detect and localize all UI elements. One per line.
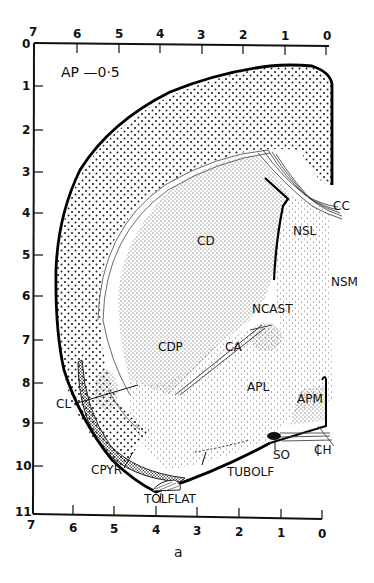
left-tick-label: 7 [22,334,30,346]
left-tick-label: 11 [15,506,32,518]
label-ncast: NCAST [252,303,293,315]
section-title: AP —0·5 [61,66,120,78]
bottom-tick-label: 7 [27,519,35,531]
label-cdp: CDP [158,341,183,353]
bottom-tick-label: 6 [69,522,77,534]
label-apl: APL [247,381,269,393]
figure-caption: a [174,544,183,560]
top-tick-label: 4 [156,28,164,40]
label-tubolf: TUBOLF [227,466,274,478]
left-tick-label: 4 [22,207,30,219]
bottom-tick-label: 4 [152,524,160,536]
top-tick-label: 5 [115,28,123,40]
label-cc: CC [333,200,350,212]
left-tick-label: 8 [22,377,30,389]
bottom-tick-label: 2 [235,526,243,538]
so-nucleus [267,432,281,440]
left-tick-label: 6 [22,290,30,302]
top-tick-label: 0 [323,30,331,42]
tolflat-patch [152,480,180,491]
bottom-tick-label: 0 [318,528,326,540]
top-tick-label: 2 [239,29,247,41]
claustrum [94,370,118,410]
label-nsl: NSL [293,225,316,237]
label-apm: APM [297,393,323,405]
left-tick-label: 9 [22,417,30,429]
left-tick-label: 2 [22,124,30,136]
top-tick-label: 3 [197,29,205,41]
label-cl: CL [56,398,71,410]
bottom-tick-label: 3 [193,525,201,537]
top-tick-label: 6 [73,28,81,40]
label-ca: CA [225,341,242,353]
top-tick-label: 1 [281,30,289,42]
label-nsm: NSM [331,276,358,288]
label-cd: CD [197,235,215,247]
ncast-nucleus [250,323,282,351]
left-tick-label: 3 [22,166,30,178]
bottom-tick-label: 1 [277,527,285,539]
left-tick-label: 5 [22,249,30,261]
bottom-tick-label: 5 [110,523,118,535]
left-tick-label: 10 [15,460,32,472]
label-ch: CH [314,444,331,456]
label-cpyr: CPYR [91,464,122,476]
label-tolflat: TOLFLAT [144,493,196,505]
left-tick-label: 1 [22,80,30,92]
top-tick-label: 7 [29,26,37,38]
label-so: SO [273,449,290,461]
left-tick-label: 0 [22,38,30,50]
